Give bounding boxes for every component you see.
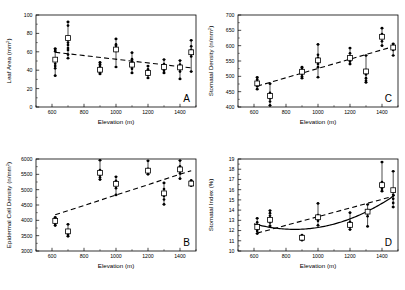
y-tick-label: 550: [226, 58, 235, 64]
data-point: [317, 76, 320, 79]
data-point: [317, 54, 320, 57]
data-group: [365, 203, 370, 228]
data-point: [381, 40, 384, 43]
chart-A: 020406080100600800100012001400Elevation …: [0, 0, 203, 145]
x-tick-label: 1400: [376, 109, 388, 115]
x-tick-label: 600: [250, 253, 259, 259]
data-point: [365, 79, 368, 82]
x-tick-label: 1000: [110, 253, 122, 259]
data-point: [190, 70, 193, 73]
data-group: [98, 61, 103, 75]
panel-letter: D: [385, 237, 392, 248]
data-point: [269, 212, 272, 215]
y-tick-label: 40: [27, 67, 33, 73]
data-point: [179, 59, 182, 62]
mean-marker: [178, 65, 183, 70]
x-tick-label: 1200: [142, 109, 154, 115]
data-point: [269, 209, 272, 212]
mean-marker: [268, 217, 273, 222]
mean-marker: [162, 191, 167, 196]
data-point: [392, 193, 395, 196]
figure-container: 020406080100600800100012001400Elevation …: [0, 0, 405, 290]
axes-frame: [36, 159, 196, 251]
data-point: [256, 76, 259, 79]
y-tick-label: 0: [30, 104, 33, 110]
data-point: [115, 66, 118, 69]
mean-marker: [189, 181, 194, 186]
mean-marker: [114, 47, 119, 52]
regression-line: [55, 52, 191, 68]
data-point: [67, 57, 70, 60]
data-series: [255, 161, 396, 242]
data-group: [391, 170, 396, 208]
y-tick-label: 13: [229, 217, 235, 223]
panel-B: 3000350040004500500055006000600800100012…: [0, 144, 203, 290]
data-point: [54, 74, 57, 77]
x-axis-title: Elevation (m): [98, 262, 134, 269]
data-point: [131, 58, 134, 61]
x-tick-label: 800: [282, 253, 291, 259]
data-point: [115, 194, 118, 197]
data-point: [115, 187, 118, 190]
data-group: [146, 159, 151, 175]
x-tick-label: 1200: [344, 109, 356, 115]
data-point: [99, 159, 102, 162]
x-axis: 600800100012001400: [238, 104, 398, 115]
mean-marker: [300, 69, 305, 74]
data-group: [268, 82, 273, 106]
data-group: [53, 47, 58, 77]
data-point: [115, 43, 118, 46]
mean-marker: [53, 219, 58, 224]
mean-marker: [255, 81, 260, 86]
data-group: [380, 161, 385, 193]
data-point: [163, 182, 166, 185]
data-group: [316, 202, 321, 227]
panel-letter: A: [183, 93, 190, 104]
chart-D: 10111213141516171819600800100012001400El…: [202, 144, 405, 290]
data-point: [392, 170, 395, 173]
regression-line: [257, 196, 393, 233]
data-point: [163, 188, 166, 191]
data-point: [67, 47, 70, 50]
mean-marker: [316, 58, 321, 63]
y-tick-label: 5000: [21, 187, 33, 193]
mean-marker: [348, 223, 353, 228]
data-point: [67, 53, 70, 56]
y-tick-label: 4000: [21, 217, 33, 223]
data-point: [190, 55, 193, 58]
data-point: [115, 175, 118, 178]
x-tick-label: 1400: [376, 253, 388, 259]
x-tick-label: 1400: [174, 109, 186, 115]
data-group: [300, 234, 305, 242]
data-group: [364, 54, 369, 84]
x-tick-label: 1400: [174, 253, 186, 259]
mean-marker: [255, 225, 260, 230]
data-point: [365, 54, 368, 57]
data-point: [381, 44, 384, 47]
y-axis-title: Stomatal Index (%): [207, 179, 214, 232]
data-point: [269, 100, 272, 103]
y-axis-title: Stomatal Density (n/mm2): [207, 26, 214, 96]
panel-letter: B: [183, 237, 190, 248]
x-tick-label: 1200: [142, 253, 154, 259]
panel-A: 020406080100600800100012001400Elevation …: [0, 0, 203, 145]
mean-marker: [380, 34, 385, 39]
mean-marker: [348, 56, 353, 61]
x-tick-label: 1000: [110, 109, 122, 115]
y-tick-label: 600: [226, 43, 235, 49]
data-point: [131, 51, 134, 54]
data-point: [256, 88, 259, 91]
data-group: [316, 43, 321, 79]
data-point: [381, 27, 384, 30]
mean-marker: [300, 235, 305, 240]
data-point: [269, 82, 272, 85]
data-series: [255, 27, 396, 107]
x-tick-label: 600: [48, 253, 57, 259]
mean-marker: [162, 65, 167, 70]
data-group: [130, 51, 135, 74]
mean-marker: [146, 71, 151, 76]
y-tick-label: 18: [229, 166, 235, 172]
data-point: [163, 198, 166, 201]
data-group: [162, 58, 167, 74]
mean-marker: [380, 183, 385, 188]
